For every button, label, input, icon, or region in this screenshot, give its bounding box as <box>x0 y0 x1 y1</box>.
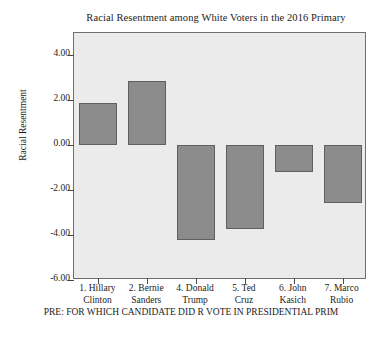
x-tick-label-line: Clinton <box>73 295 122 307</box>
x-tick-label-line: 2. Bernie <box>122 283 171 295</box>
bar <box>324 145 362 202</box>
x-tick-label-line: Cruz <box>220 295 269 307</box>
x-tick-label-line: 5. Ted <box>220 283 269 295</box>
x-tick-label-line: 4. Donald <box>171 283 220 295</box>
bar <box>226 145 264 229</box>
bar <box>128 81 166 145</box>
bar <box>275 145 313 172</box>
x-axis-title: PRE: FOR WHICH CANDIDATE DID R VOTE IN P… <box>18 307 364 317</box>
x-tick-label-line: Rubio <box>317 295 366 307</box>
y-tick-label: -2.00 <box>50 183 70 193</box>
x-tick-label-line: Sanders <box>122 295 171 307</box>
x-tick-label-line: Trump <box>171 295 220 307</box>
bar-chart-figure: Racial Resentment among White Voters in … <box>0 0 382 339</box>
x-tick-label: 2. BernieSanders <box>122 283 171 306</box>
x-tick-label: 1. HillaryClinton <box>73 283 122 306</box>
x-tick-label-line: 6. John <box>268 283 317 295</box>
y-axis-title: Racial Resentment <box>18 65 28 185</box>
chart-title: Racial Resentment among White Voters in … <box>60 12 372 23</box>
x-tick-label-line: 1. Hillary <box>73 283 122 295</box>
x-tick-label: 6. JohnKasich <box>268 283 317 306</box>
x-tick-label: 4. DonaldTrump <box>171 283 220 306</box>
x-tick-label-line: Kasich <box>268 295 317 307</box>
y-tick-label: -6.00 <box>50 273 70 283</box>
plot-area: 4.002.000.00-2.00-4.00-6.00 <box>73 32 366 279</box>
y-tick-label: 0.00 <box>53 138 70 148</box>
y-tick-label: 4.00 <box>53 48 70 58</box>
x-tick-label: 7. MarcoRubio <box>317 283 366 306</box>
y-tick-label: 2.00 <box>53 93 70 103</box>
x-tick-label: 5. TedCruz <box>220 283 269 306</box>
bar <box>177 145 215 239</box>
x-tick-label-line: 7. Marco <box>317 283 366 295</box>
bar <box>79 103 117 146</box>
y-tick-label: -4.00 <box>50 228 70 238</box>
